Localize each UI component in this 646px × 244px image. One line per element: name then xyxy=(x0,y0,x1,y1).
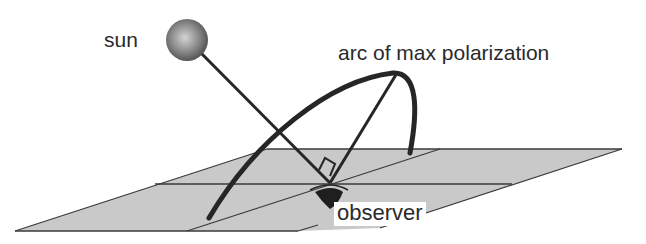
observer-label: observer xyxy=(334,202,426,226)
arc-label: arc of max polarization xyxy=(338,42,549,63)
ground-plane xyxy=(15,149,622,231)
sun-icon xyxy=(166,19,208,61)
sun-label: sun xyxy=(104,29,138,50)
diagram-canvas xyxy=(0,0,646,244)
